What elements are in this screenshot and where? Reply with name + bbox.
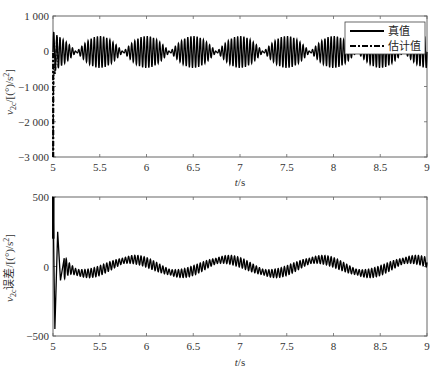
- y-tick-label: −1 000: [18, 81, 49, 93]
- x-tick-label: 7.5: [280, 161, 294, 173]
- x-tick-label: 7: [237, 161, 243, 173]
- figure: 55.566.577.588.59 −3 000−2 000−1 00001 0…: [0, 0, 438, 377]
- x-tick-label: 5: [50, 161, 56, 173]
- x-tick-label: 5.5: [93, 161, 107, 173]
- bottom-x-axis-label: t/s: [235, 356, 245, 368]
- bottom-plot: 55.566.577.588.59 −5000500 t/s ν2c误差/[(°…: [2, 191, 430, 368]
- x-tick-label: 5: [50, 340, 56, 352]
- y-tick-label: −500: [26, 330, 49, 342]
- y-tick-label: 0: [44, 261, 50, 273]
- top-y-axis-label: ν2c/[(°)/s2]: [2, 69, 18, 115]
- top-plot: 55.566.577.588.59 −3 000−2 000−1 00001 0…: [2, 10, 430, 188]
- bottom-y-axis-label: ν2c误差/[(°)/s2]: [2, 234, 18, 302]
- top-x-axis-label: t/s: [235, 176, 245, 188]
- x-tick-label: 7.5: [280, 340, 294, 352]
- y-tick-label: 0: [44, 45, 50, 57]
- x-tick-label: 8: [331, 340, 337, 352]
- y-tick-label: 1 000: [24, 10, 49, 22]
- legend-est-label: 估计值: [388, 40, 421, 53]
- x-tick-label: 6: [144, 340, 150, 352]
- y-tick-label: −3 000: [18, 151, 49, 163]
- legend-true-label: 真值: [388, 24, 410, 38]
- x-tick-label: 8.5: [373, 161, 387, 173]
- x-tick-label: 6.5: [186, 161, 200, 173]
- legend: 真值 估计值: [345, 22, 425, 54]
- x-tick-label: 6: [144, 161, 150, 173]
- y-tick-label: 500: [33, 191, 50, 203]
- x-tick-label: 8: [331, 161, 337, 173]
- x-tick-label: 9: [424, 161, 430, 173]
- x-tick-label: 6.5: [186, 340, 200, 352]
- x-tick-label: 8.5: [373, 340, 387, 352]
- y-tick-label: −2 000: [18, 116, 49, 128]
- x-tick-label: 9: [424, 340, 430, 352]
- x-tick-label: 7: [237, 340, 243, 352]
- x-tick-label: 5.5: [93, 340, 107, 352]
